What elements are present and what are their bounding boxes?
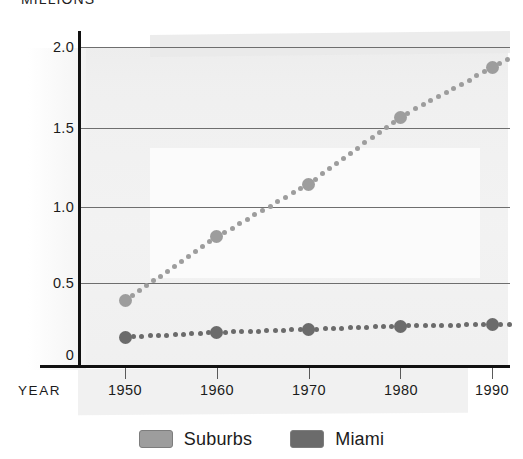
trail-dot-suburbs <box>334 161 339 166</box>
y-axis-line <box>78 31 81 367</box>
trail-dot-suburbs <box>370 135 375 140</box>
trail-dot-miami <box>314 327 319 332</box>
trail-dot-suburbs <box>283 195 288 200</box>
trail-dot-suburbs <box>268 204 273 209</box>
trail-dot-miami <box>364 325 369 330</box>
data-point-miami-1970 <box>302 323 315 336</box>
x-tick-label-1970: 1970 <box>277 382 341 398</box>
trail-dot-suburbs <box>459 82 464 87</box>
trail-dot-suburbs <box>421 102 426 107</box>
trail-dot-miami <box>148 333 153 338</box>
x-tick-label-1960: 1960 <box>185 382 249 398</box>
trail-dot-miami <box>181 332 186 337</box>
trail-dot-suburbs <box>474 73 479 78</box>
trail-dot-suburbs <box>230 226 235 231</box>
trail-dot-suburbs <box>137 288 142 293</box>
trail-dot-suburbs <box>362 140 367 145</box>
trail-dot-miami <box>198 331 203 336</box>
legend-label-miami: Miami <box>335 429 384 450</box>
data-point-miami-1980 <box>394 320 407 333</box>
gridline-1-5 <box>78 128 510 129</box>
trail-dot-miami <box>248 329 253 334</box>
trail-dot-miami <box>448 323 453 328</box>
trail-dot-suburbs <box>451 86 456 91</box>
trail-dot-miami <box>131 334 136 339</box>
legend-label-suburbs: Suburbs <box>184 429 252 450</box>
legend-item-miami: Miami <box>290 429 384 450</box>
x-axis-line <box>40 365 510 368</box>
trail-dot-miami <box>456 323 461 328</box>
trail-dot-miami <box>139 334 144 339</box>
trail-dot-miami <box>464 322 469 327</box>
trail-dot-suburbs <box>144 283 149 288</box>
data-point-suburbs-1950 <box>119 294 132 307</box>
data-point-miami-1990 <box>486 318 499 331</box>
trail-dot-suburbs <box>436 94 441 99</box>
trail-dot-suburbs <box>186 254 191 259</box>
x-tick-1970 <box>309 368 310 379</box>
trail-dot-suburbs <box>384 125 389 130</box>
trail-dot-suburbs <box>327 166 332 171</box>
trail-dot-miami <box>473 322 478 327</box>
trail-dot-miami <box>256 329 261 334</box>
gridline-1-0 <box>78 207 510 208</box>
x-axis-title: YEAR <box>18 383 61 398</box>
trail-dot-miami <box>406 323 411 328</box>
data-point-suburbs-1960 <box>210 230 223 243</box>
gridline-2-0 <box>78 47 510 48</box>
trail-dot-miami <box>323 326 328 331</box>
x-tick-label-1980: 1980 <box>369 382 433 398</box>
legend-item-suburbs: Suburbs <box>139 429 252 450</box>
data-point-suburbs-1980 <box>394 111 407 124</box>
trail-dot-suburbs <box>237 221 242 226</box>
trail-dot-miami <box>331 326 336 331</box>
chart-figure: MILLIONS 2.0 1.5 1.0 0.5 0 1950 1960 197… <box>0 0 523 459</box>
trail-dot-miami <box>156 333 161 338</box>
trail-dot-suburbs <box>377 130 382 135</box>
trail-dot-miami <box>164 333 169 338</box>
trail-dot-suburbs <box>444 90 449 95</box>
trail-dot-suburbs <box>320 171 325 176</box>
trail-dot-suburbs <box>245 217 250 222</box>
trail-dot-miami <box>289 327 294 332</box>
trail-dot-suburbs <box>172 264 177 269</box>
trail-dot-miami <box>273 328 278 333</box>
trail-dot-miami <box>173 332 178 337</box>
trail-dot-miami <box>373 324 378 329</box>
trail-dot-miami <box>414 323 419 328</box>
trail-dot-miami <box>348 325 353 330</box>
trail-dot-miami <box>507 322 512 327</box>
data-point-suburbs-1970 <box>302 178 315 191</box>
y-tick-label-1-0: 1.0 <box>26 199 74 215</box>
chart-legend: Suburbs Miami <box>0 424 523 454</box>
trail-dot-suburbs <box>275 199 280 204</box>
trail-dot-miami <box>264 328 269 333</box>
x-tick-1980 <box>400 368 401 379</box>
legend-swatch-suburbs <box>139 430 173 448</box>
trail-dot-miami <box>431 323 436 328</box>
trail-dot-miami <box>356 325 361 330</box>
y-tick-label-1-5: 1.5 <box>26 120 74 136</box>
trail-dot-miami <box>439 323 444 328</box>
trail-dot-miami <box>498 322 503 327</box>
data-point-miami-1950 <box>119 331 132 344</box>
data-point-suburbs-1990 <box>486 61 499 74</box>
trail-dot-miami <box>231 329 236 334</box>
plot-area <box>78 30 512 370</box>
trail-dot-suburbs <box>165 269 170 274</box>
y-tick-label-0: 0 <box>26 347 74 363</box>
trail-dot-miami <box>423 323 428 328</box>
x-tick-label-1990: 1990 <box>460 382 523 398</box>
data-point-miami-1960 <box>210 326 223 339</box>
y-tick-label-2-0: 2.0 <box>26 39 74 55</box>
trail-dot-suburbs <box>355 146 360 151</box>
trail-dot-suburbs <box>179 259 184 264</box>
trail-dot-suburbs <box>467 78 472 83</box>
trail-dot-suburbs <box>260 208 265 213</box>
trail-dot-suburbs <box>291 190 296 195</box>
trail-dot-suburbs <box>252 212 257 217</box>
trail-dot-suburbs <box>413 106 418 111</box>
legend-swatch-miami <box>290 430 324 448</box>
trail-dot-suburbs <box>341 156 346 161</box>
trail-dot-suburbs <box>193 249 198 254</box>
